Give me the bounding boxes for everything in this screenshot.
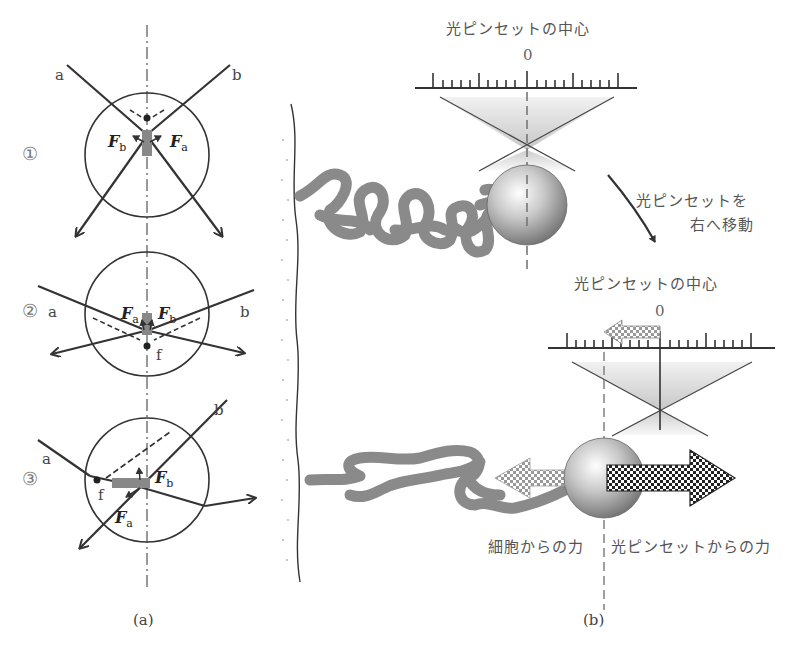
case-2-force-a-label: Fa	[121, 306, 139, 325]
case-2-diagram	[38, 252, 254, 376]
case-1-force-a-label: Fa	[170, 134, 188, 153]
panel-b-caption: (b)	[583, 613, 604, 628]
case-2-ray-b-label: b	[240, 305, 250, 320]
cell-dots	[281, 139, 289, 561]
top-ruler	[415, 71, 637, 88]
case-2-number: ②	[22, 302, 38, 320]
panel-a	[38, 25, 255, 590]
panel-a-caption: (a)	[133, 613, 154, 628]
move-note-line1: 光ピンセットを	[636, 194, 748, 209]
case-1-force-b-label: Fb	[108, 134, 126, 153]
tweezer-force-label: 光ピンセットからの力	[611, 540, 771, 555]
case-2-focus-label: f	[156, 348, 162, 363]
cell-force-label: 細胞からの力	[488, 540, 584, 555]
case-3-focus-label: f	[98, 488, 104, 503]
panel-b	[281, 71, 775, 610]
bottom-zero-label: 0	[655, 304, 665, 319]
case-1-ray-a-label: a	[55, 68, 64, 83]
case-1-number: ①	[22, 145, 38, 163]
cell-membrane	[291, 104, 300, 582]
case-3-force-b-label: Fb	[155, 470, 173, 489]
case-2-force-b-label: Fb	[158, 306, 176, 325]
bottom-ruler	[548, 331, 775, 348]
case-2-ray-a-label: a	[48, 305, 57, 320]
case-3-ray-b-label: b	[214, 403, 224, 418]
case-1-diagram	[67, 65, 230, 236]
top-tweezer-center-title: 光ピンセットの中心	[446, 22, 590, 37]
case-3-number: ③	[22, 470, 38, 488]
case-1-ray-b-label: b	[232, 68, 242, 83]
case-3-ray-a-label: a	[42, 452, 51, 467]
top-zero-label: 0	[523, 48, 533, 63]
case-3-force-a-label: Fa	[115, 510, 133, 529]
move-note-line2: 右へ移動	[690, 218, 754, 233]
bottom-tweezer-center-title: 光ピンセットの中心	[574, 277, 718, 292]
